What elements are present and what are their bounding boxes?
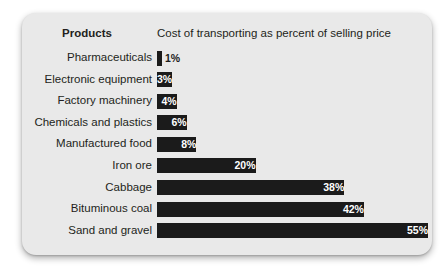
bar-row-label: Pharmaceuticals bbox=[67, 51, 152, 63]
bar-row: Sand and gravel55% bbox=[22, 222, 432, 244]
bar-value-label: 20% bbox=[157, 158, 261, 173]
bar-row-label: Iron ore bbox=[112, 159, 152, 171]
bar-value-label: 6% bbox=[157, 115, 192, 130]
bar-row: Pharmaceuticals1% bbox=[22, 49, 432, 71]
bar-track: 55% bbox=[157, 223, 428, 238]
bar-row: Electronic equipment3% bbox=[22, 71, 432, 93]
bar-track: 8% bbox=[157, 137, 428, 152]
column-header-products: Products bbox=[22, 27, 152, 39]
bar-row: Manufactured food8% bbox=[22, 135, 432, 157]
bar-row-label: Cabbage bbox=[105, 181, 152, 193]
bar-value-label: 1% bbox=[162, 51, 180, 66]
bar-value-label: 42% bbox=[157, 202, 369, 217]
bar-track: 1% bbox=[157, 51, 428, 66]
bar-row: Iron ore20% bbox=[22, 157, 432, 179]
bar-row-label: Bituminous coal bbox=[71, 202, 152, 214]
bar-row-label: Electronic equipment bbox=[45, 73, 152, 85]
bar-value-label: 55% bbox=[157, 223, 432, 238]
bar-value-label: 3% bbox=[157, 72, 177, 87]
bar-row-label: Sand and gravel bbox=[68, 224, 152, 236]
bar-track: 42% bbox=[157, 202, 428, 217]
column-header-cost: Cost of transporting as percent of selli… bbox=[157, 27, 391, 39]
chart-header-row: Products Cost of transporting as percent… bbox=[22, 27, 432, 45]
bar-track: 38% bbox=[157, 180, 428, 195]
bar-row-label: Manufactured food bbox=[56, 137, 152, 149]
bar-rows: Pharmaceuticals1%Electronic equipment3%F… bbox=[22, 49, 432, 243]
bar-value-label: 4% bbox=[157, 94, 182, 109]
bar-value-label: 38% bbox=[157, 180, 349, 195]
bar-value-label: 8% bbox=[157, 137, 201, 152]
bar-track: 6% bbox=[157, 115, 428, 130]
bar-row-label: Factory machinery bbox=[57, 94, 152, 106]
bar-track: 4% bbox=[157, 94, 428, 109]
bar-row-label: Chemicals and plastics bbox=[34, 116, 152, 128]
chart-card: Products Cost of transporting as percent… bbox=[22, 13, 432, 255]
bar-track: 20% bbox=[157, 158, 428, 173]
bar-row: Chemicals and plastics6% bbox=[22, 114, 432, 136]
bar-row: Bituminous coal42% bbox=[22, 200, 432, 222]
bar-track: 3% bbox=[157, 72, 428, 87]
bar-row: Cabbage38% bbox=[22, 179, 432, 201]
bar-row: Factory machinery4% bbox=[22, 92, 432, 114]
